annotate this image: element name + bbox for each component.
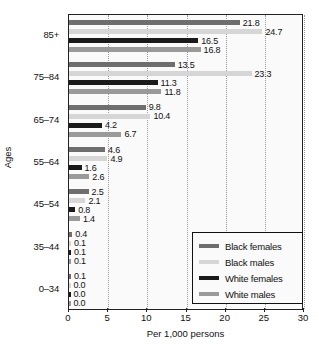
bar-row: 23.3 xyxy=(69,71,302,76)
bar xyxy=(69,89,161,94)
bar xyxy=(69,250,71,255)
legend-item-black-females: Black females xyxy=(199,238,302,254)
x-tick-30: 30 xyxy=(298,312,309,323)
bar-value-label: 4.9 xyxy=(110,153,122,163)
legend-swatch-icon xyxy=(199,276,219,280)
bar-row: 24.7 xyxy=(69,29,302,34)
bar-row: 11.8 xyxy=(69,89,302,94)
bar xyxy=(69,47,201,52)
bar-row: 16.5 xyxy=(69,38,302,43)
bar-row: 0.8 xyxy=(69,207,302,212)
x-tick-0: 0 xyxy=(65,312,70,323)
bar xyxy=(69,232,72,237)
bar xyxy=(69,283,71,288)
bar xyxy=(69,123,102,128)
legend-label: Black males xyxy=(225,257,274,268)
bar xyxy=(69,274,71,279)
bar-value-label: 1.4 xyxy=(83,214,95,224)
bar xyxy=(69,241,71,246)
bar-row: 21.8 xyxy=(69,20,302,25)
legend-swatch-icon xyxy=(199,260,219,264)
legend-swatch-icon xyxy=(199,244,219,248)
bar-row: 4.6 xyxy=(69,147,302,152)
bar xyxy=(69,29,262,34)
bar xyxy=(69,20,240,25)
bar xyxy=(69,301,71,306)
x-tick-5: 5 xyxy=(105,312,110,323)
bar xyxy=(69,156,107,161)
y-tick-55–64: 55–64 xyxy=(34,156,59,167)
bar xyxy=(69,132,121,137)
bar-value-label: 2.6 xyxy=(92,171,104,181)
bar xyxy=(69,165,82,170)
bar-row: 6.7 xyxy=(69,132,302,137)
legend-swatch-icon xyxy=(199,292,219,296)
bar-row: 4.9 xyxy=(69,156,302,161)
bar xyxy=(69,80,158,85)
legend-label: White males xyxy=(225,289,275,300)
x-tick-15: 15 xyxy=(180,312,191,323)
legend: Black femalesBlack malesWhite femalesWhi… xyxy=(192,232,303,304)
bar xyxy=(69,198,85,203)
bar-value-label: 0.1 xyxy=(74,256,86,266)
bar-value-label: 13.5 xyxy=(178,60,195,70)
x-tick-25: 25 xyxy=(259,312,270,323)
bar-chart: 21.824.716.516.813.523.311.311.89.810.44… xyxy=(0,0,319,358)
x-tick-10: 10 xyxy=(141,312,152,323)
bar-row: 4.2 xyxy=(69,123,302,128)
legend-item-black-males: Black males xyxy=(199,254,302,270)
bar-value-label: 0.0 xyxy=(74,298,86,308)
y-tick-0–34: 0–34 xyxy=(39,283,59,294)
bar-row: 2.6 xyxy=(69,174,302,179)
legend-item-white-males: White males xyxy=(199,286,302,302)
bar-value-label: 4.2 xyxy=(105,120,117,130)
bar xyxy=(69,105,146,110)
bar xyxy=(69,147,105,152)
bar xyxy=(69,259,71,264)
bar-value-label: 16.8 xyxy=(204,44,221,54)
y-tick-65–74: 65–74 xyxy=(34,114,59,125)
bar xyxy=(69,71,252,76)
bar-value-label: 10.4 xyxy=(153,111,170,121)
bar xyxy=(69,114,150,119)
legend-label: Black females xyxy=(225,241,282,252)
y-tick-35–44: 35–44 xyxy=(34,241,59,252)
gridline-30 xyxy=(304,15,305,309)
y-tick-85+: 85+ xyxy=(43,29,59,40)
bar-value-label: 6.7 xyxy=(124,129,136,139)
bar-row: 11.3 xyxy=(69,80,302,85)
bar-value-label: 24.7 xyxy=(265,26,282,36)
bar xyxy=(69,292,71,297)
bar-row: 10.4 xyxy=(69,114,302,119)
x-axis-tick-labels: 051015202530 xyxy=(68,312,303,326)
bar-row: 2.1 xyxy=(69,198,302,203)
bar xyxy=(69,62,175,67)
bar-row: 1.6 xyxy=(69,165,302,170)
bar xyxy=(69,189,89,194)
y-axis-label: Ages xyxy=(2,138,13,178)
bar-row: 13.5 xyxy=(69,62,302,67)
legend-label: White females xyxy=(225,273,283,284)
y-tick-45–54: 45–54 xyxy=(34,198,59,209)
x-tick-20: 20 xyxy=(219,312,230,323)
bar xyxy=(69,174,89,179)
bar-value-label: 11.8 xyxy=(164,87,180,97)
bar xyxy=(69,207,75,212)
bar xyxy=(69,38,198,43)
x-axis-label: Per 1,000 persons xyxy=(68,328,303,339)
bar-row: 1.4 xyxy=(69,216,302,221)
bar-value-label: 21.8 xyxy=(243,17,260,27)
bar xyxy=(69,216,80,221)
y-tick-75–84: 75–84 xyxy=(34,71,59,82)
bar-row: 16.8 xyxy=(69,47,302,52)
bar-row: 2.5 xyxy=(69,189,302,194)
legend-item-white-females: White females xyxy=(199,270,302,286)
bar-row: 9.8 xyxy=(69,105,302,110)
bar-value-label: 23.3 xyxy=(255,69,272,79)
